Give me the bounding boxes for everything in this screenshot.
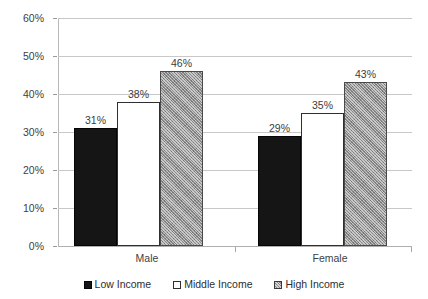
- y-axis-tick-60: [53, 18, 57, 19]
- x-axis-label-female: Female: [300, 253, 360, 264]
- y-axis-label-60: 60%: [0, 13, 44, 24]
- y-axis-tick-10: [53, 208, 57, 209]
- chart-legend: Low Income Middle Income High Income: [0, 279, 428, 290]
- bar-label-male-low-income: 31%: [74, 115, 117, 126]
- plot-area: 31% 38% 46% 29% 35% 43%: [58, 18, 412, 246]
- legend-item-high-income[interactable]: High Income: [274, 279, 344, 290]
- y-axis-label-0: 0%: [0, 241, 44, 252]
- gridline-50: [58, 56, 412, 57]
- bar-label-male-middle-income: 38%: [117, 89, 160, 100]
- legend-swatch-low-income-icon: [84, 281, 92, 289]
- x-axis-tick-group-separator: [235, 247, 236, 252]
- bar-female-low-income[interactable]: [258, 136, 301, 246]
- y-axis-label-20: 20%: [0, 165, 44, 176]
- legend-label-low-income: Low Income: [95, 279, 152, 290]
- bar-male-low-income[interactable]: [74, 128, 117, 246]
- legend-swatch-middle-income-icon: [173, 281, 181, 289]
- y-axis-label-30: 30%: [0, 127, 44, 138]
- legend-swatch-high-income-icon: [274, 281, 282, 289]
- bar-female-high-income[interactable]: [344, 82, 387, 246]
- x-axis-tick-right-end: [411, 247, 412, 252]
- y-axis-tick-0: [53, 246, 57, 247]
- y-axis-tick-40: [53, 94, 57, 95]
- bar-male-middle-income[interactable]: [117, 102, 160, 246]
- y-axis-tick-30: [53, 132, 57, 133]
- y-axis-tick-50: [53, 56, 57, 57]
- y-axis-tick-20: [53, 170, 57, 171]
- legend-item-middle-income[interactable]: Middle Income: [173, 279, 252, 290]
- legend-label-middle-income: Middle Income: [184, 279, 252, 290]
- legend-label-high-income: High Income: [285, 279, 344, 290]
- bar-label-female-middle-income: 35%: [301, 100, 344, 111]
- bar-chart: 60% 50% 40% 30% 20% 10% 0% 31% 38% 46% 2…: [0, 0, 428, 299]
- gridline-60: [58, 18, 412, 19]
- y-axis-label-10: 10%: [0, 203, 44, 214]
- bar-female-middle-income[interactable]: [301, 113, 344, 246]
- y-axis-label-40: 40%: [0, 89, 44, 100]
- bar-label-female-low-income: 29%: [258, 123, 301, 134]
- bar-male-high-income[interactable]: [160, 71, 203, 246]
- y-axis-label-50: 50%: [0, 51, 44, 62]
- bar-label-female-high-income: 43%: [344, 69, 387, 80]
- x-axis-label-male: Male: [117, 253, 177, 264]
- bar-label-male-high-income: 46%: [160, 58, 203, 69]
- legend-item-low-income[interactable]: Low Income: [84, 279, 152, 290]
